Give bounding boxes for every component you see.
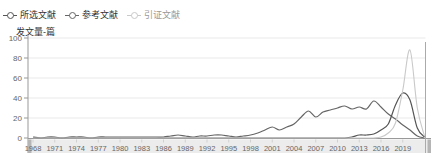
x-axis-label: 2004 [286,144,303,153]
series-line-reference-documents [33,101,425,138]
x-axis-label: 1977 [90,144,107,153]
y-axis-label: 60 [13,74,22,83]
y-axis-label: 0 [18,134,23,143]
x-axis-label: 1989 [177,144,194,153]
trend-chart-canvas[interactable]: 0204060801001968197119741977198019831986… [0,0,437,165]
series-line-citing-documents [33,50,425,138]
x-axis-label: 2013 [351,144,368,153]
y-axis-label: 40 [13,94,22,103]
x-axis-label: 1995 [220,144,237,153]
x-axis-label: 2007 [307,144,324,153]
x-axis-label: 2019 [394,144,411,153]
x-axis-label: 2016 [373,144,390,153]
datazoom-handle-right[interactable] [428,140,432,154]
publication-trend-chart: 所选文献 参考文献 引证文献 发文量-篇 0204060801001968197… [0,0,437,165]
x-axis-label: 2010 [329,144,346,153]
x-axis-label: 2001 [264,144,281,153]
x-axis-label: 1968 [25,144,42,153]
y-axis-label: 20 [13,114,22,123]
y-axis-label: 100 [9,34,23,43]
x-axis-label: 1998 [242,144,259,153]
x-axis-label: 1971 [46,144,63,153]
x-axis-label: 1983 [133,144,150,153]
x-axis-label: 1980 [112,144,129,153]
series-line-selected-documents [33,93,425,138]
y-axis-label: 80 [13,54,22,63]
x-axis-label: 1974 [68,144,85,153]
x-axis-label: 1992 [199,144,216,153]
x-axis-label: 1986 [155,144,172,153]
